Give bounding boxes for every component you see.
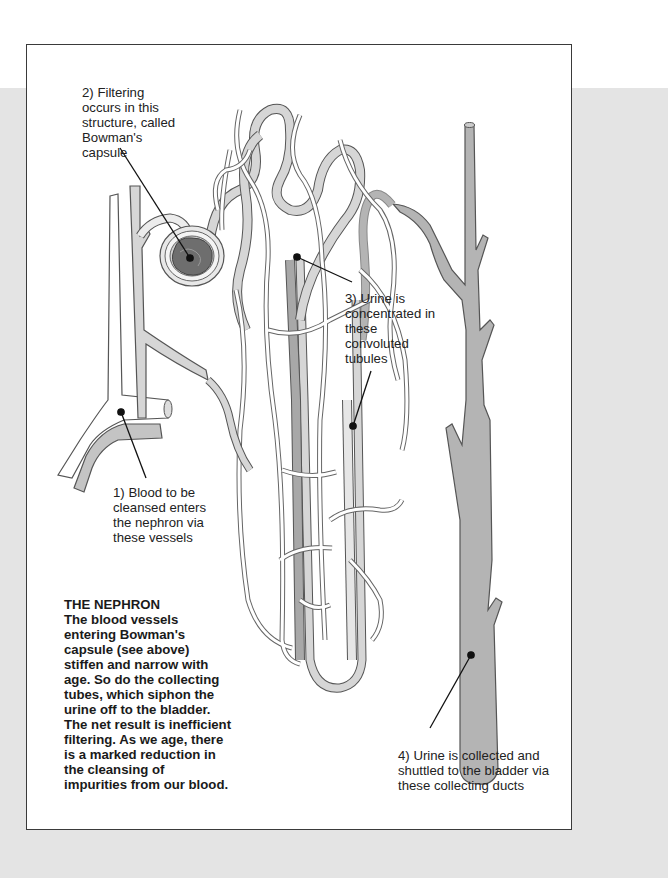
nephron-title: THE NEPHRON — [64, 597, 160, 612]
nephron-description: The blood vessels entering Bowman's caps… — [64, 612, 231, 792]
label-convoluted-tubules: 3) Urine is concentrated in these convol… — [345, 291, 435, 366]
label-blood-vessels: 1) Blood to be cleansed enters the nephr… — [113, 485, 206, 545]
label-collecting-ducts: 4) Urine is collected and shuttled to th… — [398, 748, 549, 793]
convoluted-tubules — [210, 109, 360, 330]
collecting-duct — [362, 123, 502, 785]
label-bowmans-capsule: 2) Filtering occurs in this structure, c… — [82, 85, 175, 160]
